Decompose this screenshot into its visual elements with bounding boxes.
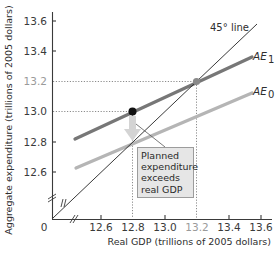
- svg-text:12.6: 12.6: [24, 166, 48, 178]
- annotation-line-3: exceeds: [141, 172, 193, 183]
- point-12.8-13.0: [129, 108, 137, 116]
- svg-text:AE: AE: [252, 85, 267, 97]
- svg-text:1: 1: [268, 54, 274, 65]
- point-equilibrium: [193, 78, 200, 85]
- ae1-label: AE 1: [252, 50, 274, 65]
- y-axis-title: Aggregate expenditure (trillions of 2005…: [3, 5, 14, 234]
- ae1-line: [75, 57, 252, 139]
- svg-text:12.8: 12.8: [121, 221, 144, 233]
- annotation-box: Planned expenditure exceeds real GDP: [137, 147, 194, 198]
- ae0-label: AE 0: [252, 85, 274, 100]
- svg-text:12.6: 12.6: [89, 221, 113, 233]
- svg-text:13.6: 13.6: [24, 15, 48, 27]
- forty-five-line-label: 45° line: [210, 22, 249, 33]
- svg-text:13.4: 13.4: [24, 45, 48, 57]
- svg-text:0: 0: [41, 221, 48, 233]
- svg-text:AE: AE: [252, 50, 267, 62]
- aggregate-expenditure-chart: 13.6 13.4 13.2 13.0 12.8 12.6 0 12.6 12.…: [0, 0, 279, 253]
- svg-text:13.2: 13.2: [24, 75, 47, 87]
- svg-text:12.8: 12.8: [24, 136, 47, 148]
- svg-text:13.4: 13.4: [217, 221, 241, 233]
- x-axis-title: Real GDP (trillions of 2005 dollars): [108, 236, 272, 247]
- svg-text:0: 0: [268, 89, 274, 100]
- annotation-line-1: Planned: [141, 150, 193, 161]
- svg-text:13.0: 13.0: [153, 221, 176, 233]
- annotation-line-2: expenditure: [141, 161, 193, 172]
- svg-text:13.0: 13.0: [24, 105, 47, 117]
- y-tick-labels: 13.6 13.4 13.2 13.0 12.8 12.6: [24, 15, 48, 178]
- annotation-line-4: real GDP: [141, 184, 193, 195]
- x-tick-labels: 0 12.6 12.8 13.0 13.2 13.4 13.6: [41, 221, 273, 233]
- svg-text:13.2: 13.2: [185, 221, 208, 233]
- svg-text:13.6: 13.6: [249, 221, 273, 233]
